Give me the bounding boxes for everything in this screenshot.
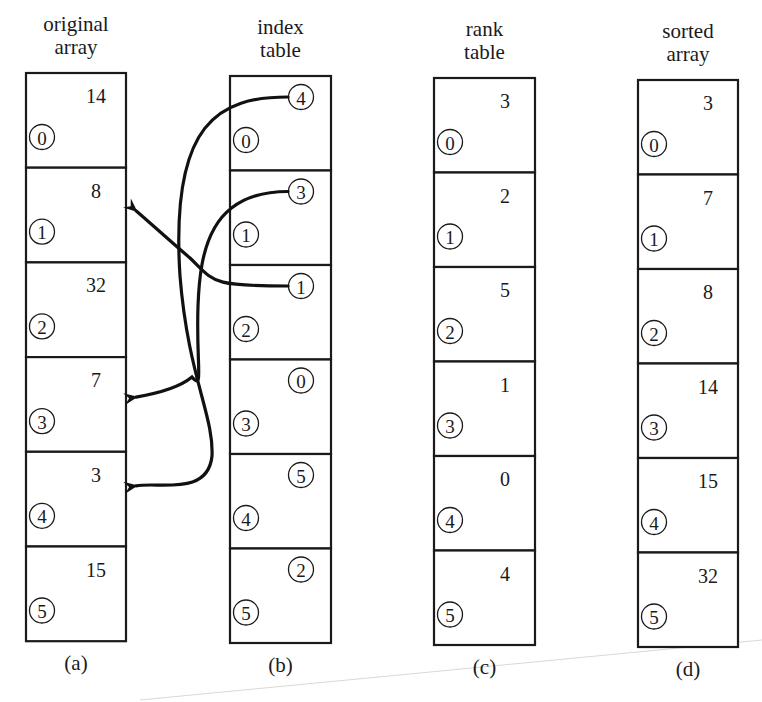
- cell-box: [434, 173, 535, 268]
- panel-title-line: sorted: [662, 19, 714, 43]
- array-cell: 18: [26, 168, 126, 263]
- cell-pointer-value: 1: [289, 274, 314, 299]
- circled-number: 5: [649, 607, 659, 628]
- cell-box: [434, 78, 535, 173]
- circled-number: 3: [296, 182, 306, 203]
- circled-number: 4: [649, 513, 659, 534]
- array-cell: 03: [638, 80, 738, 175]
- cell-value: 8: [703, 281, 713, 303]
- panel-title-line: array: [666, 42, 710, 66]
- cell-value: 5: [500, 279, 510, 301]
- array-cell: 13: [230, 171, 331, 266]
- cell-value: 8: [91, 180, 101, 202]
- circled-number: 1: [296, 277, 306, 298]
- cell-index-badge: 2: [642, 321, 667, 346]
- cell-box: [434, 551, 535, 646]
- cell-value: 14: [698, 376, 718, 398]
- circled-number: 1: [649, 229, 659, 250]
- circled-number: 2: [445, 322, 455, 343]
- circled-number: 4: [241, 509, 251, 530]
- scan-artifact-line: [140, 640, 762, 700]
- cell-index-badge: 3: [438, 413, 463, 438]
- array-cell: 25: [434, 267, 535, 362]
- panel-b: indextable041321304552(b): [230, 15, 331, 677]
- array-cell: 515: [26, 547, 126, 642]
- cell-index-badge: 0: [438, 130, 463, 155]
- circled-number: 3: [649, 418, 659, 439]
- array-cell: 415: [638, 458, 738, 553]
- cell-value: 7: [703, 187, 713, 209]
- cell-index-badge: 1: [30, 219, 55, 244]
- cell-index-badge: 4: [234, 506, 259, 531]
- cell-index-badge: 2: [30, 314, 55, 339]
- cell-index-badge: 5: [30, 598, 55, 623]
- array-cell: 54: [434, 551, 535, 646]
- panels-group: originalarray014182323743515(a)indextabl…: [26, 12, 738, 681]
- cell-index-badge: 4: [642, 510, 667, 535]
- cell-index-badge: 1: [234, 222, 259, 247]
- array-cell: 37: [26, 357, 126, 452]
- circled-number: 5: [445, 605, 455, 626]
- cell-value: 3: [91, 464, 101, 486]
- cell-box: [638, 269, 738, 364]
- circled-number: 0: [296, 371, 306, 392]
- cell-index-badge: 5: [234, 600, 259, 625]
- cell-pointer-value: 5: [289, 463, 314, 488]
- circled-number: 4: [37, 506, 47, 527]
- cell-box: [434, 456, 535, 551]
- panel-a: originalarray014182323743515(a): [26, 12, 126, 675]
- panel-title-line: table: [464, 40, 505, 64]
- array-cell: 21: [230, 265, 331, 360]
- diagram-canvas: originalarray014182323743515(a)indextabl…: [0, 0, 762, 702]
- cell-value: 15: [698, 470, 718, 492]
- cell-box: [638, 80, 738, 175]
- panel-caption: (d): [676, 657, 701, 681]
- circled-number: 5: [296, 466, 306, 487]
- cell-box: [230, 265, 331, 360]
- cell-index-badge: 3: [30, 409, 55, 434]
- cell-index-badge: 1: [642, 226, 667, 251]
- array-cell: 03: [434, 78, 535, 173]
- cell-box: [638, 175, 738, 270]
- circled-number: 0: [241, 131, 251, 152]
- circled-number: 5: [37, 601, 47, 622]
- cell-box: [230, 171, 331, 266]
- cell-box: [26, 168, 126, 263]
- array-cell: 014: [26, 73, 126, 168]
- cell-box: [230, 76, 331, 171]
- cell-value: 1: [500, 374, 510, 396]
- circled-number: 4: [296, 88, 306, 109]
- circled-number: 3: [241, 414, 251, 435]
- cell-index-badge: 4: [438, 508, 463, 533]
- array-cell: 40: [434, 456, 535, 551]
- cell-pointer-value: 2: [289, 557, 314, 582]
- circled-number: 0: [37, 128, 47, 149]
- cell-index-badge: 1: [438, 224, 463, 249]
- array-cell: 04: [230, 76, 331, 171]
- panel-caption: (c): [473, 655, 496, 679]
- cell-value: 32: [698, 565, 718, 587]
- circled-number: 4: [445, 511, 455, 532]
- circled-number: 1: [37, 222, 47, 243]
- array-cell: 232: [26, 262, 126, 357]
- cell-index-badge: 3: [234, 411, 259, 436]
- cell-pointer-value: 3: [289, 179, 314, 204]
- cell-index-badge: 3: [642, 415, 667, 440]
- cell-pointer-value: 4: [289, 85, 314, 110]
- cell-box: [26, 547, 126, 642]
- cell-pointer-value: 0: [289, 368, 314, 393]
- cell-index-badge: 0: [30, 125, 55, 150]
- array-cell: 17: [638, 175, 738, 270]
- array-cell: 45: [230, 454, 331, 549]
- cell-index-badge: 5: [438, 602, 463, 627]
- cell-box: [638, 553, 738, 648]
- cell-box: [26, 357, 126, 452]
- cell-index-badge: 5: [642, 604, 667, 629]
- panel-caption: (a): [64, 651, 87, 675]
- cell-value: 7: [91, 369, 101, 391]
- cell-value: 3: [703, 92, 713, 114]
- cell-index-badge: 0: [234, 128, 259, 153]
- cell-box: [434, 267, 535, 362]
- circled-number: 0: [445, 133, 455, 154]
- circled-number: 2: [649, 324, 659, 345]
